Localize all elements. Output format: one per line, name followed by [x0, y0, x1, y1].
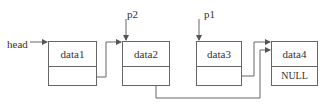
node-data-field: data3 [197, 42, 241, 67]
node-data-field: data4 [272, 42, 317, 67]
p1-label: p1 [204, 8, 215, 20]
head-label: head [7, 38, 28, 50]
node-next-field [123, 66, 169, 85]
p2-label: p2 [127, 8, 138, 20]
node-data-field: data1 [49, 42, 96, 67]
data3-to-data4-arrow [241, 42, 270, 76]
node-next-field [49, 66, 96, 85]
data1-to-data2-arrow [96, 42, 121, 77]
linked-list-diagram: head p2 p1 data1 data2 data3 data4 NULL [0, 0, 328, 106]
node-data-field: data2 [123, 42, 169, 67]
node-next-field [197, 66, 241, 85]
node-data3: data3 [196, 41, 242, 86]
node-data1: data1 [48, 41, 97, 86]
node-data4: data4 NULL [271, 41, 318, 86]
node-data2: data2 [122, 41, 170, 86]
node-next-field: NULL [272, 66, 317, 85]
